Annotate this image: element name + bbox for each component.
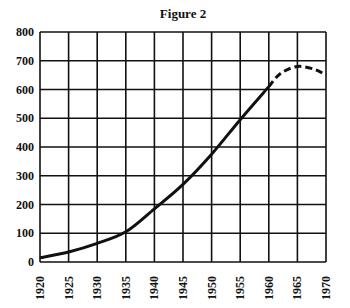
y-tick-label: 0 bbox=[28, 255, 34, 269]
y-tick-label: 100 bbox=[16, 226, 34, 240]
y-tick-label: 400 bbox=[16, 140, 34, 154]
x-tick-label: 1960 bbox=[262, 276, 276, 300]
y-tick-label: 600 bbox=[16, 83, 34, 97]
x-tick-label: 1955 bbox=[233, 276, 247, 300]
y-tick-label: 700 bbox=[16, 54, 34, 68]
y-tick-label: 200 bbox=[16, 198, 34, 212]
y-tick-label: 300 bbox=[16, 169, 34, 183]
x-tick-label: 1940 bbox=[147, 276, 161, 300]
x-tick-label: 1930 bbox=[90, 276, 104, 300]
y-tick-label: 500 bbox=[16, 111, 34, 125]
x-tick-label: 1965 bbox=[290, 276, 304, 300]
x-tick-label: 1970 bbox=[319, 276, 333, 300]
x-tick-label: 1920 bbox=[33, 276, 47, 300]
line-chart: 1920192519301935194019451950195519601965… bbox=[0, 0, 350, 308]
x-tick-label: 1925 bbox=[62, 276, 76, 300]
x-tick-label: 1935 bbox=[119, 276, 133, 300]
x-tick-label: 1945 bbox=[176, 276, 190, 300]
x-tick-label: 1950 bbox=[205, 276, 219, 300]
y-tick-label: 800 bbox=[16, 25, 34, 39]
